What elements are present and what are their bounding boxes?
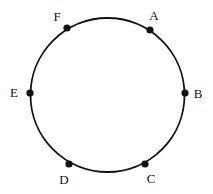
point-f xyxy=(63,24,70,31)
point-c xyxy=(141,160,148,167)
point-label-e: E xyxy=(10,85,18,100)
point-label-c: C xyxy=(147,171,156,186)
point-label-a: A xyxy=(149,8,159,23)
circle xyxy=(31,18,185,172)
circle-diagram: ABCDEF xyxy=(0,0,213,194)
point-b xyxy=(181,89,188,96)
point-e xyxy=(26,89,33,96)
point-d xyxy=(65,160,72,167)
point-label-f: F xyxy=(53,9,60,24)
point-label-d: D xyxy=(59,172,68,187)
point-a xyxy=(146,26,153,33)
point-label-b: B xyxy=(194,86,203,101)
